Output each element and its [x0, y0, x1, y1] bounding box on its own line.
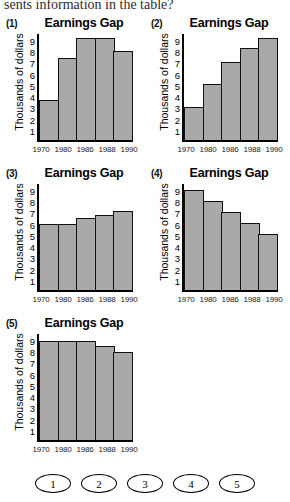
- y-tick-2: 2: [30, 115, 35, 124]
- answer-choice-2[interactable]: 2: [81, 474, 117, 493]
- chart-panel-5[interactable]: (5) Earnings Gap Thousands of dollars 98…: [0, 314, 145, 464]
- plot-area-5: 987654321: [37, 334, 133, 442]
- x-tick-label: 1986: [219, 295, 241, 304]
- x-tick-label: 1980: [197, 145, 219, 154]
- y-tick-4: 4: [175, 243, 180, 252]
- y-tick-7: 7: [30, 59, 35, 68]
- x-tick-label: 1986: [74, 445, 96, 454]
- y-tick-3: 3: [30, 404, 35, 413]
- chart-number-4: (4): [151, 168, 162, 179]
- chart-panel-1[interactable]: (1) Earnings Gap Thousands of dollars 98…: [0, 14, 145, 164]
- chart-title-2: Earnings Gap: [173, 16, 285, 30]
- answer-choice-5[interactable]: 5: [219, 474, 255, 493]
- bar: [184, 107, 204, 140]
- chart-row-1: (1) Earnings Gap Thousands of dollars 98…: [0, 14, 290, 164]
- x-axis-labels-5: 19701980198619881990: [30, 445, 140, 454]
- y-tick-6: 6: [30, 220, 35, 229]
- x-axis-line-4: [182, 290, 278, 292]
- y-axis-ticks-2: 987654321: [169, 34, 180, 142]
- answer-choice-3[interactable]: 3: [127, 474, 163, 493]
- x-tick-label: 1980: [52, 295, 74, 304]
- chart-row-3: (5) Earnings Gap Thousands of dollars 98…: [0, 314, 290, 464]
- y-axis-ticks-3: 987654321: [24, 184, 35, 292]
- x-axis-line-5: [37, 440, 133, 442]
- y-tick-2: 2: [175, 265, 180, 274]
- chart-number-2: (2): [151, 18, 162, 29]
- chart-number-1: (1): [6, 18, 17, 29]
- bar: [58, 224, 78, 290]
- x-tick-label: 1986: [74, 145, 96, 154]
- y-tick-3: 3: [30, 104, 35, 113]
- x-tick-label: 1990: [118, 295, 140, 304]
- y-tick-5: 5: [30, 231, 35, 240]
- bar-series-5: [39, 334, 133, 440]
- question-stem: sents information in the table?: [4, 0, 286, 13]
- y-tick-5: 5: [30, 381, 35, 390]
- y-tick-2: 2: [175, 115, 180, 124]
- y-tick-1: 1: [175, 276, 180, 285]
- x-tick-label: 1988: [241, 295, 263, 304]
- bar: [58, 58, 78, 140]
- plot-area-1: 987654321: [37, 34, 133, 142]
- y-tick-9: 9: [175, 186, 180, 195]
- x-tick-label: 1990: [263, 295, 285, 304]
- y-tick-6: 6: [175, 220, 180, 229]
- plot-area-2: 987654321: [182, 34, 278, 142]
- y-axis-ticks-4: 987654321: [169, 184, 180, 292]
- bar: [95, 346, 115, 440]
- x-tick-label: 1988: [241, 145, 263, 154]
- x-axis-labels-1: 19701980198619881990: [30, 145, 140, 154]
- answer-choices: 12345: [0, 474, 290, 493]
- y-tick-9: 9: [30, 36, 35, 45]
- y-tick-8: 8: [30, 198, 35, 207]
- bar-series-1: [39, 34, 133, 140]
- bar: [58, 341, 78, 440]
- chart-panel-3[interactable]: (3) Earnings Gap Thousands of dollars 98…: [0, 164, 145, 314]
- y-tick-2: 2: [30, 265, 35, 274]
- bar: [39, 341, 59, 440]
- y-tick-4: 4: [30, 93, 35, 102]
- chart-row-2: (3) Earnings Gap Thousands of dollars 98…: [0, 164, 290, 314]
- x-tick-label: 1988: [96, 295, 118, 304]
- answer-choice-1[interactable]: 1: [35, 474, 71, 493]
- chart-panel-4[interactable]: (4) Earnings Gap Thousands of dollars 98…: [145, 164, 290, 314]
- y-tick-1: 1: [30, 126, 35, 135]
- y-tick-7: 7: [175, 59, 180, 68]
- x-tick-label: 1970: [30, 445, 52, 454]
- y-tick-5: 5: [30, 81, 35, 90]
- x-tick-label: 1988: [96, 145, 118, 154]
- bar: [258, 234, 278, 290]
- y-tick-6: 6: [30, 370, 35, 379]
- chart-number-3: (3): [6, 168, 17, 179]
- y-tick-1: 1: [30, 426, 35, 435]
- x-tick-label: 1980: [52, 445, 74, 454]
- y-tick-9: 9: [30, 186, 35, 195]
- y-tick-8: 8: [175, 48, 180, 57]
- bar: [203, 84, 223, 140]
- y-tick-5: 5: [175, 231, 180, 240]
- x-axis-labels-2: 19701980198619881990: [175, 145, 285, 154]
- y-tick-7: 7: [175, 209, 180, 218]
- answer-choice-4[interactable]: 4: [173, 474, 209, 493]
- bar: [113, 211, 133, 291]
- x-tick-label: 1970: [175, 295, 197, 304]
- y-axis-ticks-5: 987654321: [24, 334, 35, 442]
- y-tick-9: 9: [30, 336, 35, 345]
- bar: [240, 48, 260, 140]
- x-axis-line-1: [37, 140, 133, 142]
- y-tick-4: 4: [30, 393, 35, 402]
- bar: [113, 51, 133, 140]
- x-tick-label: 1990: [118, 145, 140, 154]
- y-tick-7: 7: [30, 209, 35, 218]
- bar: [240, 223, 260, 290]
- bar: [203, 201, 223, 290]
- y-tick-8: 8: [30, 348, 35, 357]
- x-tick-label: 1986: [219, 145, 241, 154]
- x-axis-line-3: [37, 290, 133, 292]
- y-tick-3: 3: [175, 254, 180, 263]
- bar: [95, 215, 115, 290]
- y-tick-9: 9: [175, 36, 180, 45]
- chart-panel-2[interactable]: (2) Earnings Gap Thousands of dollars 98…: [145, 14, 290, 164]
- x-tick-label: 1988: [96, 445, 118, 454]
- chart-title-3: Earnings Gap: [28, 166, 140, 180]
